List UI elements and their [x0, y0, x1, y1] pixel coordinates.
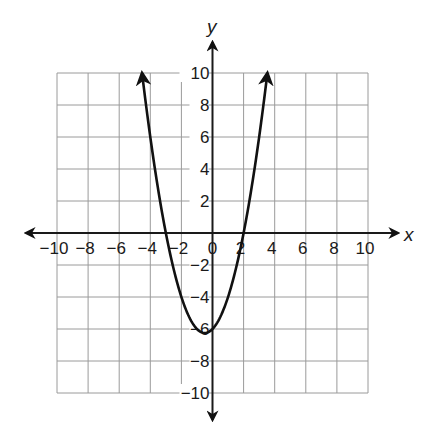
x-tick-label: −6 [107, 239, 126, 258]
y-tick-label: −2 [190, 256, 209, 275]
y-tick-label: 8 [200, 96, 209, 115]
y-tick-label: −8 [190, 352, 209, 371]
y-tick-label: 2 [200, 192, 209, 211]
y-tick-label: 4 [200, 160, 209, 179]
x-tick-label: 4 [267, 239, 276, 258]
y-axis-label: y [205, 16, 218, 37]
x-tick-label: 6 [298, 239, 307, 258]
coordinate-plane: −10−8−6−4−20246810 108642−2−4−6−8−10 x y [0, 0, 440, 443]
y-tick-label: 10 [191, 64, 210, 83]
x-tick-label: 10 [356, 239, 375, 258]
axes [26, 42, 398, 420]
y-tick-label: −10 [181, 384, 210, 403]
x-tick-label: −10 [40, 239, 69, 258]
x-axis-label: x [403, 224, 415, 245]
x-tick-label: −4 [138, 239, 157, 258]
x-tick-label: 8 [329, 239, 338, 258]
y-tick-label: 6 [200, 128, 209, 147]
y-tick-label: −4 [190, 288, 209, 307]
x-tick-label: −8 [75, 239, 94, 258]
